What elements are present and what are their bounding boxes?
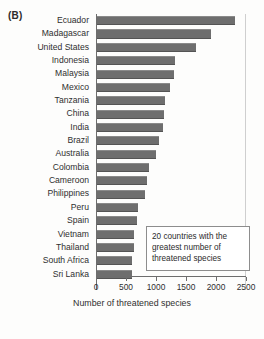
x-axis-tick-label: 1500: [177, 282, 196, 292]
x-axis-title: Number of threatened species: [0, 298, 264, 308]
bar: [97, 70, 174, 79]
x-axis-tick-label: 2500: [237, 282, 256, 292]
category-axis-labels: EcuadorMadagascarUnited StatesIndonesiaM…: [0, 14, 93, 290]
x-axis-tick-label: 2000: [207, 282, 226, 292]
category-label: Sri Lanka: [0, 268, 93, 281]
x-axis-tick: [156, 277, 157, 281]
bar: [97, 16, 235, 25]
category-label: South Africa: [0, 254, 93, 267]
bar: [97, 256, 132, 265]
annotation-line-3: threatened species: [152, 253, 244, 264]
bar-row: [97, 94, 245, 107]
bar: [97, 150, 156, 159]
bar-row: [97, 147, 245, 160]
category-label: Peru: [0, 201, 93, 214]
bar: [97, 190, 145, 199]
x-axis-line: [96, 276, 246, 281]
category-label: Malaysia: [0, 67, 93, 80]
category-label: Tanzania: [0, 94, 93, 107]
bar-row: [97, 121, 245, 134]
category-label: Vietnam: [0, 228, 93, 241]
bar-row: [97, 41, 245, 54]
bar: [97, 110, 164, 119]
annotation-line-1: 20 countries with the: [152, 231, 244, 242]
x-axis-tick: [216, 277, 217, 281]
bar: [97, 123, 163, 132]
category-label: Madagascar: [0, 27, 93, 40]
bar-row: [97, 187, 245, 200]
category-label: India: [0, 121, 93, 134]
x-axis-tick: [126, 277, 127, 281]
category-label: Ecuador: [0, 14, 93, 27]
annotation-line-2: greatest number of: [152, 242, 244, 253]
bar-row: [97, 54, 245, 67]
x-axis-tick-labels: 05001000150020002500: [60, 282, 264, 294]
bar: [97, 203, 138, 212]
category-label: Cameroon: [0, 174, 93, 187]
bar-row: [97, 14, 245, 27]
x-axis-tick-label: 1000: [147, 282, 166, 292]
bar-row: [97, 67, 245, 80]
bar-row: [97, 201, 245, 214]
bar-row: [97, 81, 245, 94]
category-label: Australia: [0, 147, 93, 160]
x-axis-tick-label: 0: [94, 282, 99, 292]
bar: [97, 136, 159, 145]
bar: [97, 96, 165, 105]
bar: [97, 56, 175, 65]
bar-row: [97, 134, 245, 147]
category-label: Spain: [0, 214, 93, 227]
annotation-callout: 20 countries with the greatest number of…: [146, 226, 250, 271]
x-axis-tick: [96, 277, 97, 281]
x-axis-tick: [186, 277, 187, 281]
bar: [97, 163, 149, 172]
category-label: United States: [0, 41, 93, 54]
x-axis-tick: [246, 277, 247, 281]
bar-row: [97, 174, 245, 187]
bar: [97, 176, 147, 185]
category-label: China: [0, 107, 93, 120]
bar: [97, 230, 134, 239]
bar: [97, 243, 134, 252]
category-label: Philippines: [0, 187, 93, 200]
bar: [97, 29, 211, 38]
bar-row: [97, 161, 245, 174]
category-label: Mexico: [0, 81, 93, 94]
bar-row: [97, 27, 245, 40]
bar: [97, 216, 137, 225]
x-axis-tick-label: 500: [119, 282, 133, 292]
category-label: Indonesia: [0, 54, 93, 67]
figure-panel-b: (B) EcuadorMadagascarUnited StatesIndone…: [0, 0, 264, 339]
bar: [97, 83, 170, 92]
bar-row: [97, 107, 245, 120]
category-label: Brazil: [0, 134, 93, 147]
category-label: Colombia: [0, 161, 93, 174]
bar: [97, 43, 196, 52]
category-label: Thailand: [0, 241, 93, 254]
